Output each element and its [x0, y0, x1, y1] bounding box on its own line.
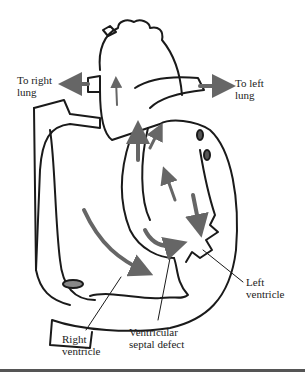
- label-line: To left: [235, 77, 264, 89]
- label-line: Ventricular: [129, 326, 184, 338]
- label-to-right-lung: To right lung: [17, 74, 52, 98]
- label-line: To right: [17, 74, 52, 86]
- septum-outline: [122, 140, 174, 258]
- vena-cava-outline: [34, 100, 100, 305]
- label-right-ventricle: Right ventricle: [62, 333, 100, 357]
- pulmonary-artery-outline: [135, 77, 204, 108]
- label-left-ventricle: Left ventricle: [246, 276, 284, 300]
- label-line: lung: [17, 86, 52, 98]
- label-line: Right: [62, 333, 100, 345]
- label-line: ventricle: [62, 345, 100, 357]
- bottom-rule: [0, 369, 305, 372]
- label-ventricular-septal-defect: Ventricular septal defect: [129, 326, 184, 350]
- left-ventricle-outline: [186, 150, 218, 262]
- label-line: Left: [246, 276, 284, 288]
- heart-diagram: [0, 0, 305, 376]
- heart-outline: [50, 90, 237, 348]
- label-line: lung: [235, 89, 264, 101]
- label-to-left-lung: To left lung: [235, 77, 264, 101]
- label-line: septal defect: [129, 338, 184, 350]
- label-line: ventricle: [246, 288, 284, 300]
